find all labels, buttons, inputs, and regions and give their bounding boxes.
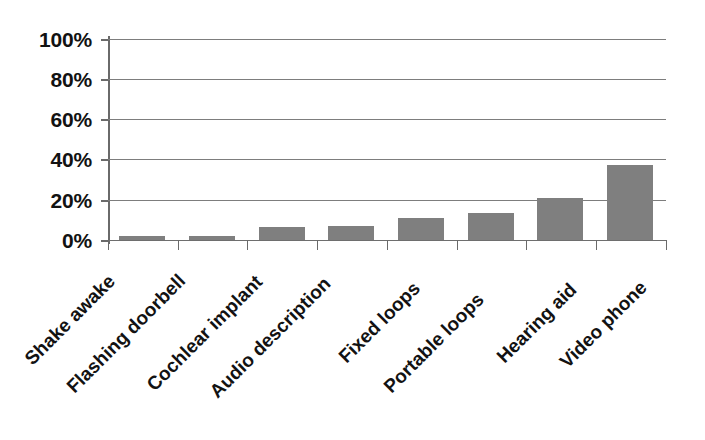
- bar-chart: 100% 80% 60% 40% 20% 0%: [0, 0, 705, 440]
- x-axis-category-labels: Shake awake Flashing doorbell Cochlear i…: [0, 0, 705, 440]
- x-label-audio-description: Audio description: [206, 274, 334, 402]
